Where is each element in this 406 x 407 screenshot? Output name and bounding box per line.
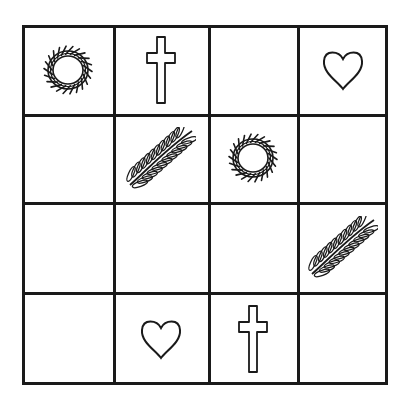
grid-cell-r1-c4[interactable] <box>297 25 388 114</box>
grid-cell-r4-c4[interactable] <box>297 292 388 385</box>
puzzle-grid <box>22 25 388 385</box>
grid-cell-r4-c1[interactable] <box>22 292 113 385</box>
grid-cell-r4-c3[interactable] <box>208 292 297 385</box>
grid-cell-r4-c2[interactable] <box>113 292 208 385</box>
heart-icon <box>321 49 365 91</box>
grid-cell-r1-c1[interactable] <box>22 25 113 114</box>
grid-cell-r1-c3[interactable] <box>208 25 297 114</box>
grid-cell-r2-c3[interactable] <box>208 114 297 202</box>
grid-cell-r2-c4[interactable] <box>297 114 388 202</box>
heart-icon <box>139 318 183 360</box>
palm-branch-icon <box>308 216 378 278</box>
crown-of-thorns-icon <box>41 42 95 98</box>
grid-cell-r2-c1[interactable] <box>22 114 113 202</box>
grid-cell-r3-c2[interactable] <box>113 202 208 292</box>
grid-cell-r3-c3[interactable] <box>208 202 297 292</box>
palm-branch-icon <box>126 127 196 189</box>
grid-cell-r3-c1[interactable] <box>22 202 113 292</box>
cross-icon <box>146 35 176 105</box>
grid-cell-r3-c4[interactable] <box>297 202 388 292</box>
crown-of-thorns-icon <box>226 130 280 186</box>
grid-cell-r2-c2[interactable] <box>113 114 208 202</box>
cross-icon <box>238 304 268 374</box>
grid-cell-r1-c2[interactable] <box>113 25 208 114</box>
